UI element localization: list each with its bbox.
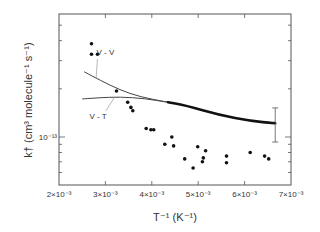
data-point — [90, 42, 94, 46]
v-v-leader-line — [96, 59, 97, 78]
y-tick-label: 10⁻¹³ — [39, 133, 58, 142]
x-tick-label: 3×10⁻³ — [93, 190, 118, 199]
annotations: V - VV - T — [89, 48, 115, 121]
data-point — [170, 135, 174, 139]
data-point — [144, 127, 148, 131]
v-t-label: V - T — [89, 112, 106, 121]
x-tick-label: 4×10⁻³ — [139, 190, 164, 199]
x-tick-label: 5×10⁻³ — [186, 190, 211, 199]
y-axis-label: k† (cm³ molecule⁻¹ s⁻¹) — [22, 42, 34, 157]
data-point — [196, 145, 200, 149]
data-point — [201, 160, 205, 164]
data-point — [183, 157, 187, 161]
data-point — [267, 157, 271, 161]
v-v-label: V - V — [97, 48, 115, 57]
data-point — [225, 161, 229, 165]
curves — [82, 72, 275, 124]
x-axis-label: T⁻¹ (K⁻¹) — [153, 211, 197, 223]
data-point — [204, 149, 208, 153]
x-tick-label: 7×10⁻³ — [279, 190, 304, 199]
x-tick-label: 6×10⁻³ — [232, 190, 257, 199]
y-ticks: 10⁻¹³ — [39, 25, 291, 172]
chart: 2×10⁻³3×10⁻³4×10⁻³5×10⁻³6×10⁻³7×10⁻³ 10⁻… — [0, 0, 320, 232]
data-point — [225, 154, 229, 158]
data-point — [163, 143, 167, 147]
data-point — [172, 144, 176, 148]
data-point — [126, 100, 130, 104]
v-t-leader-line — [106, 97, 115, 111]
data-point — [115, 89, 119, 93]
combined-curve — [168, 102, 275, 123]
x-tick-label: 2×10⁻³ — [47, 190, 72, 199]
data-points — [90, 42, 271, 170]
data-point — [90, 52, 94, 56]
error-bar — [272, 108, 278, 142]
data-point — [152, 128, 156, 132]
data-point — [248, 151, 252, 155]
data-point — [263, 154, 267, 158]
plot-frame — [59, 14, 291, 185]
data-point — [131, 109, 135, 113]
data-point — [191, 166, 195, 170]
data-point — [202, 156, 206, 160]
data-point — [129, 106, 133, 110]
x-ticks: 2×10⁻³3×10⁻³4×10⁻³5×10⁻³6×10⁻³7×10⁻³ — [47, 14, 304, 199]
